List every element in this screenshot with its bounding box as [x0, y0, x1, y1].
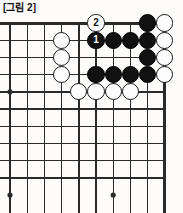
- stone-black[interactable]: [139, 32, 156, 49]
- stone-white[interactable]: [156, 14, 173, 31]
- stone-white[interactable]: [122, 83, 139, 100]
- stone-white[interactable]: [53, 32, 70, 49]
- stone-move-number: 1: [88, 33, 103, 48]
- stone-black[interactable]: [105, 66, 122, 83]
- stone-white-move-2[interactable]: 2: [87, 14, 104, 31]
- stone-black[interactable]: [105, 32, 122, 49]
- stone-black[interactable]: [139, 14, 156, 31]
- go-diagram-figure: [그림 2] 21: [0, 0, 183, 213]
- stone-white[interactable]: [156, 32, 173, 49]
- go-board[interactable]: 21: [0, 17, 183, 213]
- figure-caption: [그림 2]: [3, 0, 36, 16]
- stone-white[interactable]: [70, 83, 87, 100]
- stone-move-number: 2: [88, 15, 103, 30]
- stone-white[interactable]: [105, 83, 122, 100]
- stone-black[interactable]: [122, 32, 139, 49]
- stone-black[interactable]: [139, 49, 156, 66]
- go-stones-layer: 21: [0, 17, 183, 213]
- stone-white[interactable]: [87, 83, 104, 100]
- stone-black[interactable]: [122, 66, 139, 83]
- stone-white[interactable]: [53, 66, 70, 83]
- stone-black-move-1[interactable]: 1: [87, 32, 104, 49]
- stone-white[interactable]: [156, 49, 173, 66]
- stone-white[interactable]: [156, 66, 173, 83]
- stone-black[interactable]: [87, 66, 104, 83]
- stone-black[interactable]: [139, 66, 156, 83]
- stone-white[interactable]: [53, 49, 70, 66]
